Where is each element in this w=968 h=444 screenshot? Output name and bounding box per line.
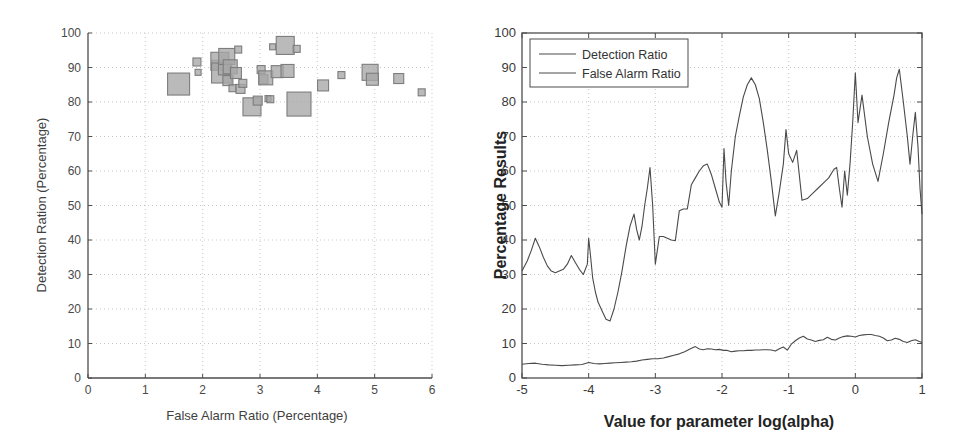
line-x-tick-labels: -5-4-3-2-101 <box>516 382 925 397</box>
y-tick-label: 100 <box>61 26 81 40</box>
y-tick-label: 90 <box>68 61 82 75</box>
line-y-axis-label: Percentage Results <box>492 131 509 280</box>
scatter-points-group <box>168 36 426 116</box>
scatter-marker <box>267 96 274 103</box>
y-tick-label: 0 <box>74 371 81 385</box>
y-tick-label: 10 <box>68 337 82 351</box>
line-panel: -5-4-3-2-101 0102030405060708090100 Dete… <box>484 0 968 444</box>
scatter-marker <box>293 45 300 52</box>
line-svg: -5-4-3-2-101 0102030405060708090100 Dete… <box>484 0 968 444</box>
scatter-panel: 0123456 0102030405060708090100 False Ala… <box>0 0 484 444</box>
y-tick-label: 0 <box>509 370 516 385</box>
scatter-marker <box>259 71 273 85</box>
scatter-marker <box>281 64 294 77</box>
x-tick-label: 1 <box>918 382 925 397</box>
y-tick-label: 80 <box>502 94 516 109</box>
scatter-y-axis-label: Detection Ration (Percentage) <box>34 118 49 293</box>
scatter-x-axis-label: False Alarm Ratio (Percentage) <box>166 408 347 423</box>
legend-label: Detection Ratio <box>582 48 668 62</box>
x-tick-label: 4 <box>314 383 321 397</box>
scatter-marker <box>230 68 241 79</box>
scatter-marker <box>193 58 201 66</box>
x-tick-label: -5 <box>516 382 528 397</box>
y-tick-label: 40 <box>68 233 82 247</box>
series-line <box>522 69 922 321</box>
scatter-y-tick-labels: 0102030405060708090100 <box>61 26 81 385</box>
x-tick-label: 6 <box>429 383 436 397</box>
x-tick-label: 1 <box>142 383 149 397</box>
y-tick-label: 50 <box>68 199 82 213</box>
y-tick-label: 90 <box>502 60 516 75</box>
legend-label: False Alarm Ratio <box>582 67 681 81</box>
scatter-marker <box>270 44 276 50</box>
x-tick-label: -4 <box>583 382 595 397</box>
scatter-marker <box>366 73 378 85</box>
y-tick-label: 30 <box>68 268 82 282</box>
y-tick-label: 20 <box>502 301 516 316</box>
y-tick-label: 10 <box>502 336 516 351</box>
scatter-marker <box>287 92 311 116</box>
y-tick-label: 20 <box>68 302 82 316</box>
y-tick-label: 100 <box>494 25 516 40</box>
scatter-marker <box>318 80 329 91</box>
line-legend[interactable]: Detection RatioFalse Alarm Ratio <box>530 39 688 87</box>
x-tick-label: 0 <box>852 382 859 397</box>
scatter-marker <box>394 74 404 84</box>
scatter-svg: 0123456 0102030405060708090100 False Ala… <box>0 0 484 444</box>
scatter-x-tick-labels: 0123456 <box>85 383 436 397</box>
scatter-marker <box>418 89 425 96</box>
scatter-marker <box>229 85 236 92</box>
scatter-marker <box>235 46 242 53</box>
y-tick-label: 80 <box>68 95 82 109</box>
x-tick-label: -1 <box>783 382 795 397</box>
x-tick-label: 3 <box>257 383 264 397</box>
series-line <box>522 335 922 366</box>
x-tick-label: 0 <box>85 383 92 397</box>
scatter-marker <box>253 96 262 105</box>
x-tick-label: 5 <box>371 383 378 397</box>
scatter-marker <box>239 79 247 87</box>
scatter-marker <box>276 36 294 54</box>
scatter-marker <box>338 72 345 79</box>
x-tick-label: -3 <box>650 382 662 397</box>
scatter-marker <box>168 73 190 95</box>
x-tick-label: 2 <box>199 383 206 397</box>
x-tick-label: -2 <box>716 382 728 397</box>
scatter-marker <box>195 69 201 75</box>
figure-container: 0123456 0102030405060708090100 False Ala… <box>0 0 968 444</box>
y-tick-label: 70 <box>68 130 82 144</box>
line-x-axis-label: Value for parameter log(alpha) <box>604 413 834 430</box>
y-tick-label: 60 <box>68 164 82 178</box>
